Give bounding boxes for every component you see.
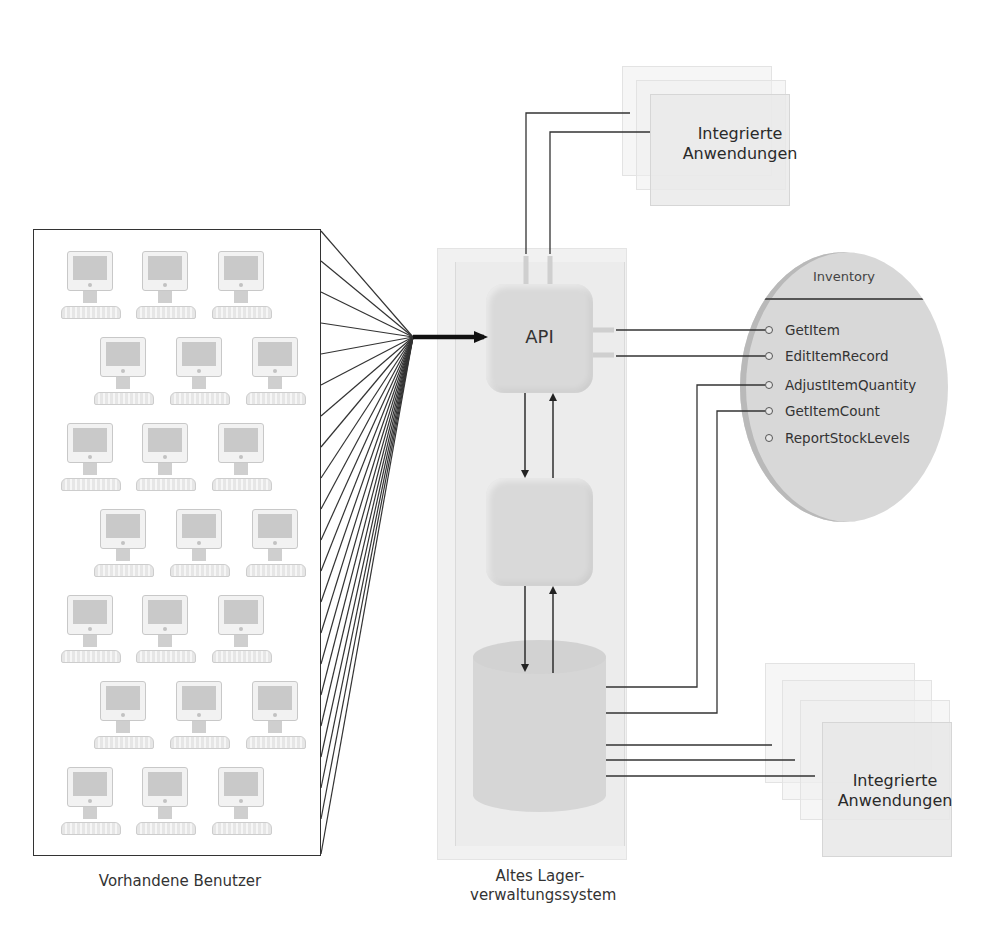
db-to-bottom-apps-lines	[606, 745, 815, 776]
api-to-top-apps-lines	[526, 113, 650, 254]
api-top-connectors	[526, 256, 550, 284]
api-to-inventory-lines	[616, 330, 765, 356]
connector-lines	[0, 0, 991, 930]
user-fan-lines	[321, 231, 413, 854]
api-right-connectors	[593, 330, 614, 355]
db-to-inventory-lines	[606, 385, 765, 713]
